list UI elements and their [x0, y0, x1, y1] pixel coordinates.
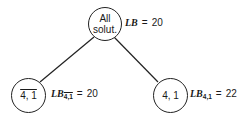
right-node: 4, 1 [153, 78, 188, 113]
bound-value: 20 [152, 17, 163, 28]
lb-symbol: LB [125, 17, 138, 28]
equals-sign: = [216, 88, 222, 99]
left-bound-label: LB 4,1 = 20 [51, 88, 98, 99]
root-node-line2: solut. [93, 24, 117, 35]
edge-root-to-right [114, 37, 158, 82]
lb-subscript: 4,1 [64, 93, 73, 100]
edge-root-to-left [40, 37, 94, 82]
root-node: All solut. [88, 7, 122, 41]
lb-symbol: LB [51, 88, 64, 99]
bound-value: 22 [226, 88, 237, 99]
lb-subscript: 4,1 [203, 93, 212, 100]
root-node-line1: All [99, 13, 110, 24]
right-node-text: 4, 1 [162, 90, 179, 101]
bound-value: 20 [87, 88, 98, 99]
equals-sign: = [77, 88, 83, 99]
right-bound-label: LB 4,1 = 22 [190, 88, 237, 99]
left-node-text: 4, 1 [20, 90, 37, 101]
lb-symbol: LB [190, 88, 203, 99]
equals-sign: = [142, 17, 148, 28]
left-node: 4, 1 [11, 78, 46, 113]
root-bound-label: LB = 20 [125, 17, 163, 28]
